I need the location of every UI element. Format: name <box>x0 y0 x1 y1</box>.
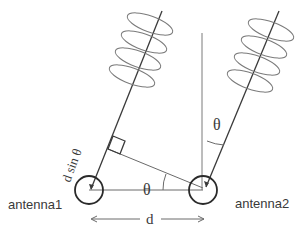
perpendicular-line <box>108 149 203 188</box>
angle-arc-top <box>207 141 224 145</box>
arrow-head-left <box>89 184 94 190</box>
antenna1-label: antenna1 <box>8 197 62 212</box>
angle-top-label: θ <box>213 116 221 133</box>
left-wave-coils <box>107 8 176 91</box>
antenna2-label: antenna2 <box>235 196 289 211</box>
antenna-array-diagram: antenna1 antenna2 d θ θ d sin θ <box>0 0 305 234</box>
angle-base-label: θ <box>143 181 151 198</box>
left-ray <box>91 11 162 189</box>
angle-arc-base <box>163 174 166 190</box>
spacing-label: d <box>146 211 154 227</box>
